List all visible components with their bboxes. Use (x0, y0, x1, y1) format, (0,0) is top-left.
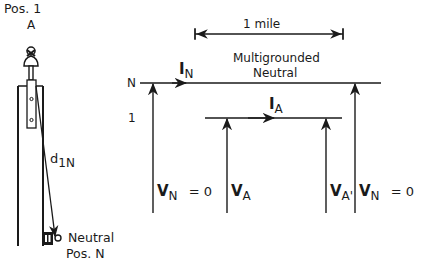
voltage-value: = 0 (189, 184, 212, 199)
voltage-label-vn-left: VN = 0 (157, 183, 212, 199)
voltage-label-va: VA (231, 183, 251, 199)
voltage-symbol: V (359, 182, 371, 200)
utility-pole (18, 47, 61, 246)
phase-current-label: IA (269, 96, 283, 112)
distance-subscript: 1N (58, 156, 75, 170)
diagram-graphics (0, 0, 426, 272)
neutral-current-label: IN (179, 61, 194, 77)
voltage-value: = 0 (391, 184, 414, 199)
current-subscript: A (275, 102, 283, 116)
voltage-label-vn-right: VN = 0 (359, 183, 414, 199)
neutral-position-label: Pos. N (66, 248, 105, 261)
conductor-title-line2: Neutral (253, 67, 297, 79)
current-symbol: I (269, 95, 275, 113)
distance-d1n-label: d1N (50, 150, 75, 166)
voltage-subscript: N (371, 189, 380, 203)
pole-position-1-label: Pos. 1 (4, 3, 41, 16)
insulator-icon (24, 47, 38, 80)
span-length-label: 1 mile (243, 18, 280, 30)
phase-a-label: A (27, 19, 35, 31)
diagram-canvas: Pos. 1 A d1N Neutral Pos. N 1 mile Multi… (0, 0, 426, 272)
voltage-label-va-prime: VA' (330, 183, 353, 199)
voltage-symbol: V (157, 182, 169, 200)
voltage-symbol: V (231, 182, 243, 200)
neutral-label: Neutral (68, 232, 114, 245)
voltage-subscript: A (243, 189, 251, 203)
conductor-title-line1: Multigrounded (233, 52, 320, 64)
voltage-symbol: V (330, 182, 342, 200)
row-1-label: 1 (128, 112, 136, 124)
row-n-label: N (127, 77, 136, 89)
current-subscript: N (185, 67, 194, 81)
voltage-subscript: N (169, 189, 178, 203)
current-symbol: I (179, 60, 185, 78)
voltage-subscript: A' (342, 189, 354, 203)
neutral-clamp-icon (43, 232, 61, 245)
